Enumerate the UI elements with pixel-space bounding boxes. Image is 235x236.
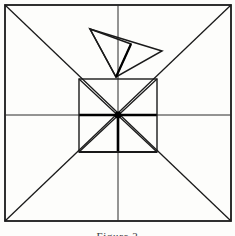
center-node bbox=[115, 112, 122, 119]
figure-container: Figure 2 bbox=[0, 0, 235, 236]
figure-caption: Figure 2 bbox=[0, 226, 235, 236]
geometric-diagram bbox=[0, 0, 235, 236]
figure-caption-text: Figure 2 bbox=[97, 230, 139, 236]
